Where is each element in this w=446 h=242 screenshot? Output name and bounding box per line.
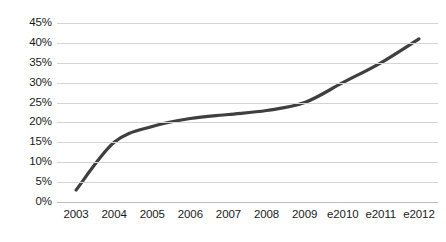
y-axis-tick-label: 25% [0, 97, 52, 109]
gridline [57, 23, 438, 24]
gridline [57, 103, 438, 104]
line-chart: 0%5%10%15%20%25%30%35%40%45% 20032004200… [0, 0, 446, 242]
gridline [57, 162, 438, 163]
series-line [57, 23, 438, 202]
y-axis-tick-label: 30% [0, 77, 52, 89]
gridline [57, 122, 438, 123]
x-axis-tick-label: 2004 [102, 207, 127, 222]
x-axis-tick-label: e2010 [327, 207, 358, 222]
plot-area [57, 23, 438, 202]
gridline [57, 63, 438, 64]
x-axis-tick-label: 2008 [254, 207, 279, 222]
x-axis-tick-label: 2009 [292, 207, 317, 222]
x-axis-tick-label: 2005 [140, 207, 165, 222]
gridline [57, 43, 438, 44]
gridline [57, 202, 438, 203]
y-axis-tick-label: 35% [0, 57, 52, 69]
x-axis-tick-label: e2011 [366, 207, 397, 222]
y-axis-tick-label: 15% [0, 137, 52, 149]
data-series-path [76, 39, 419, 190]
gridline [57, 182, 438, 183]
y-axis-tick-label: 40% [0, 37, 52, 49]
y-axis-tick-label: 10% [0, 156, 52, 168]
x-axis: 2003200420052006200720082009e2010e2011e2… [57, 207, 438, 227]
y-axis-tick-label: 45% [0, 17, 52, 29]
y-axis-tick-label: 20% [0, 117, 52, 129]
gridline [57, 83, 438, 84]
y-axis-tick-label: 0% [0, 196, 52, 208]
x-axis-tick-label: e2012 [403, 207, 434, 222]
gridline [57, 142, 438, 143]
y-axis-tick-label: 5% [0, 176, 52, 188]
x-axis-tick-label: 2003 [63, 207, 88, 222]
x-axis-tick-label: 2007 [216, 207, 241, 222]
y-axis: 0%5%10%15%20%25%30%35%40%45% [0, 23, 52, 202]
x-axis-tick-label: 2006 [178, 207, 203, 222]
